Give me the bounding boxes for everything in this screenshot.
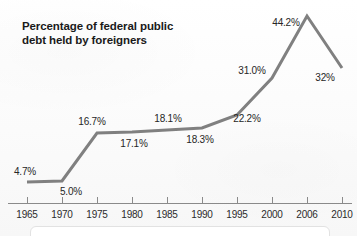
- x-tick-1995: 1995: [226, 209, 247, 220]
- chart-screenshot: Percentage of federal public debt held b…: [0, 0, 357, 236]
- value-label-1995: 22.2%: [233, 113, 260, 124]
- x-tick-1970: 1970: [51, 209, 72, 220]
- value-label-1980: 17.1%: [120, 138, 147, 149]
- value-label-2010: 32%: [315, 72, 334, 83]
- value-label-2000: 31.0%: [238, 65, 265, 76]
- x-tick-2000: 2000: [261, 209, 282, 220]
- value-label-1985: 18.1%: [154, 113, 181, 124]
- value-label-1970: 5.0%: [60, 186, 82, 197]
- value-label-2006: 44.2%: [272, 17, 299, 28]
- x-tick-1965: 1965: [16, 209, 37, 220]
- data-line: [27, 16, 342, 182]
- x-tick-1975: 1975: [86, 209, 107, 220]
- value-label-1990: 18.3%: [186, 134, 213, 145]
- x-tick-1990: 1990: [191, 209, 212, 220]
- x-tick-2010: 2010: [331, 209, 352, 220]
- x-axis-ticks: [28, 197, 343, 203]
- value-label-1965: 4.7%: [14, 166, 36, 177]
- bottom-panel: [30, 226, 330, 236]
- value-label-1975: 16.7%: [78, 116, 105, 127]
- x-tick-1985: 1985: [156, 209, 177, 220]
- x-tick-1980: 1980: [121, 209, 142, 220]
- x-tick-2006: 2006: [296, 209, 317, 220]
